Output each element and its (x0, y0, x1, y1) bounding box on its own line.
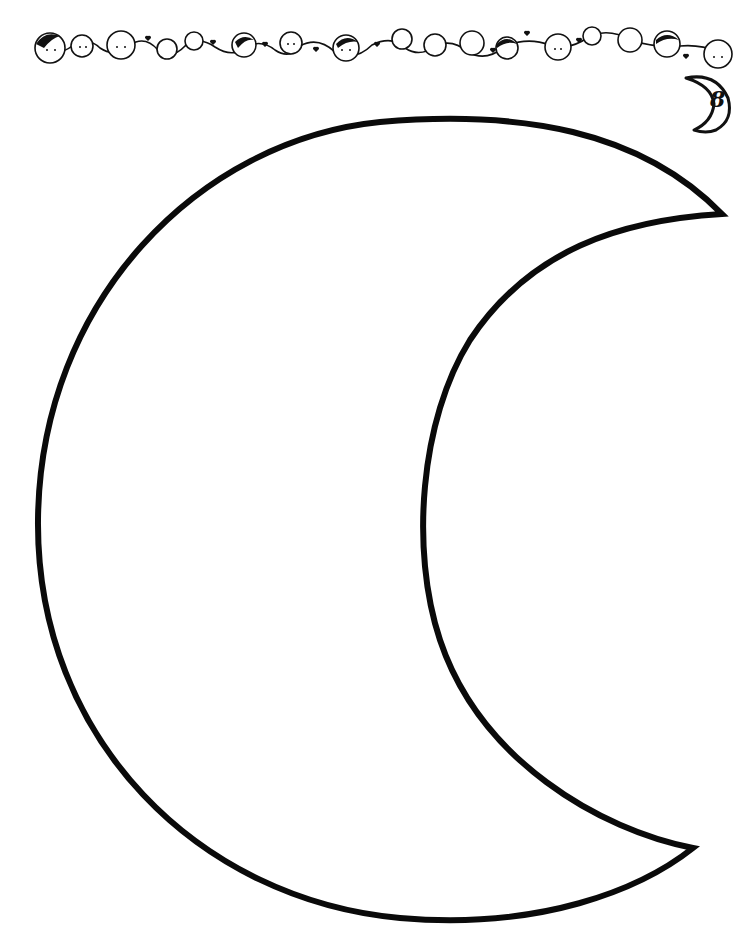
crescent-moon-outline (0, 0, 743, 943)
